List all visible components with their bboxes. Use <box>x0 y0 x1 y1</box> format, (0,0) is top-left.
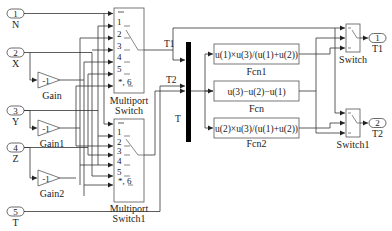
inport-number: 1 <box>13 9 18 19</box>
switch-block[interactable]: Switch <box>339 24 367 65</box>
gain-value: -1 <box>42 174 50 184</box>
gain-label: Gain <box>42 90 61 101</box>
inport-number: 4 <box>13 143 18 153</box>
switch-label: Switch <box>339 54 367 65</box>
inport-number: 3 <box>13 106 18 116</box>
inport-3[interactable]: 3 Y <box>7 106 24 128</box>
inport-label: X <box>12 58 20 69</box>
signal-label-t1: T1 <box>164 39 175 49</box>
fcn1-block[interactable]: u(1)×u(3)/(u(1)+u(2)) Fcn1 <box>214 44 299 77</box>
gain2-block[interactable]: -1 Gain2 <box>38 170 64 199</box>
outport-label: T1 <box>372 43 383 54</box>
wires-fcn <box>191 54 213 128</box>
signal-label-t2: T2 <box>166 75 177 85</box>
gain1-block[interactable]: -1 Gain1 <box>38 120 64 149</box>
mux-block[interactable] <box>186 42 191 142</box>
simulink-diagram: 1 N 2 X 3 Y 4 Z 5 T -1 Gain -1 Gain1 -1 … <box>0 0 392 231</box>
multiport-switch1[interactable]: 1 2 3 4 5 *, 6 Multiport Switch1 <box>110 119 149 224</box>
outport-number: 1 <box>375 33 380 43</box>
switch-label: Switch1 <box>337 139 370 150</box>
gain-value: -1 <box>42 76 50 86</box>
port-label: 1 <box>117 127 122 137</box>
port-label: 2 <box>117 29 122 39</box>
port-label: 4 <box>117 52 122 62</box>
port-label: 3 <box>117 146 122 156</box>
inport-2[interactable]: 2 X <box>7 48 24 70</box>
port-label: 5 <box>117 64 122 74</box>
fcn-block[interactable]: u(3)−u(2)−u(1) Fcn <box>214 81 299 114</box>
fcn-label: Fcn1 <box>247 66 267 77</box>
switch1-block[interactable]: Switch1 <box>337 109 370 150</box>
port-label: 1 <box>117 17 122 27</box>
inport-5[interactable]: 5 T <box>7 207 24 229</box>
inport-number: 2 <box>13 48 18 58</box>
outport-number: 2 <box>375 118 380 128</box>
inport-4[interactable]: 4 Z <box>7 143 24 165</box>
inport-label: T <box>12 217 18 228</box>
fcn-label: Fcn <box>249 103 264 114</box>
port-label: *, 6 <box>118 77 132 87</box>
outport-2[interactable]: 2 T2 <box>369 118 386 139</box>
port-label: 3 <box>117 41 122 51</box>
inport-label: Y <box>12 116 19 127</box>
gain-value: -1 <box>42 124 50 134</box>
gain-label: Gain2 <box>40 188 64 199</box>
fcn-expression: u(3)−u(2)−u(1) <box>227 87 285 98</box>
fcn2-block[interactable]: u(2)×u(3)/(u(1)+u(2)) Fcn2 <box>214 118 299 149</box>
port-label: 4 <box>117 156 122 166</box>
outport-1[interactable]: 1 T1 <box>369 33 386 54</box>
block-label: Switch1 <box>113 213 146 224</box>
fcn-label: Fcn2 <box>247 138 267 149</box>
port-label: *, 6 <box>118 176 132 186</box>
fcn-expression: u(1)×u(3)/(u(1)+u(2)) <box>215 50 298 61</box>
inport-label: Z <box>12 153 18 164</box>
inport-number: 5 <box>13 207 18 217</box>
gain-block[interactable]: -1 Gain <box>38 72 62 101</box>
inport-label: N <box>12 19 19 30</box>
multiport-switch[interactable]: 1 2 3 4 5 *, 6 Multiport Switch <box>110 8 149 116</box>
outport-label: T2 <box>372 128 383 139</box>
inport-1[interactable]: 1 N <box>7 9 24 31</box>
block-label: Switch <box>115 105 143 116</box>
fcn-expression: u(2)×u(3)/(u(1)+u(2)) <box>215 124 298 135</box>
signal-label-t: T <box>175 114 181 124</box>
